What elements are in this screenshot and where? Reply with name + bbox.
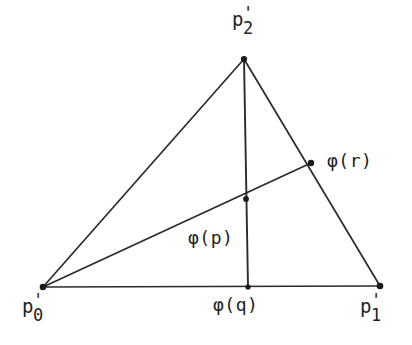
label-p0-subscript: 0 (33, 307, 44, 324)
label-p1-subscript: 1 (371, 307, 382, 324)
label-p2-subscript: 2 (243, 20, 254, 37)
label-layer: p'2 p'0 p'1 φ(r) φ(p) φ(q) (0, 0, 412, 345)
figure-canvas: p'2 p'0 p'1 φ(r) φ(p) φ(q) (0, 0, 412, 345)
label-phi-p: φ(p) (188, 229, 233, 247)
label-phi-r: φ(r) (327, 152, 372, 170)
label-phi-q: φ(q) (213, 296, 258, 314)
label-p0-prime: p'0 (22, 297, 34, 316)
label-p2-prime: p'2 (232, 10, 244, 29)
label-p1-prime: p'1 (360, 297, 372, 316)
